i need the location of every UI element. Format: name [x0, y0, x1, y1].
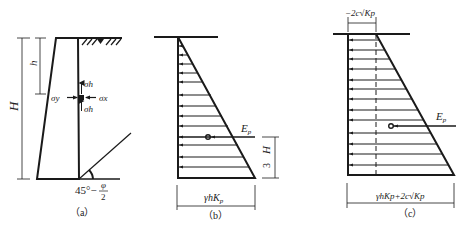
retaining-wall — [37, 38, 79, 179]
label-sigma-x: σx — [99, 93, 107, 103]
water-table-icon — [97, 39, 104, 44]
pressure-arrows — [348, 40, 448, 165]
label-sigma-h-top: σh — [84, 79, 93, 89]
angle-arc — [89, 170, 93, 179]
label-top-width-c: −2c√Kp — [345, 8, 376, 18]
label-sigma-y: σy — [51, 93, 59, 103]
label-H-third-den: 3 — [261, 163, 272, 168]
label-h: h — [27, 60, 39, 66]
label-angle-den: 2 — [101, 192, 106, 202]
panel-a — [17, 38, 131, 179]
label-angle: 45°− — [75, 184, 97, 196]
caption-b: （b） — [203, 210, 228, 221]
label-H-third-num: H — [260, 145, 272, 155]
earth-pressure-figure: H h σh σh σy σx 45°− φ 2 （a） — [0, 0, 466, 230]
label-angle-num: φ — [101, 180, 106, 190]
label-sigma-h-bottom: σh — [84, 104, 93, 114]
panel-a-labels: H h σh σh σy σx 45°− φ 2 （a） — [6, 60, 108, 218]
caption-c: （c） — [398, 208, 422, 219]
label-H: H — [6, 101, 21, 112]
caption-a: （a） — [70, 207, 94, 218]
label-Ep: Ep — [435, 110, 447, 124]
label-base-width-c: γhKp+2c√Kp — [376, 191, 425, 201]
soil-element — [79, 95, 84, 100]
failure-plane — [79, 133, 131, 179]
label-Ep: Ep — [240, 122, 252, 136]
resultant-point — [389, 124, 394, 129]
label-base-b: γhKp — [204, 192, 224, 205]
panel-b — [154, 37, 279, 210]
